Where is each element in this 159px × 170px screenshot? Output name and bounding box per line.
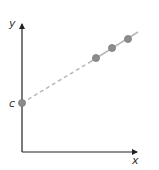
extrapolation-dashed-line: [22, 62, 90, 103]
data-point: [93, 55, 100, 62]
intercept-point: [19, 100, 26, 107]
data-point: [109, 45, 116, 52]
x-axis-label: x: [131, 154, 139, 167]
linear-graph: y c x: [0, 0, 159, 170]
data-point: [125, 36, 132, 43]
y-axis-label: y: [8, 17, 16, 30]
intercept-label: c: [9, 97, 15, 110]
